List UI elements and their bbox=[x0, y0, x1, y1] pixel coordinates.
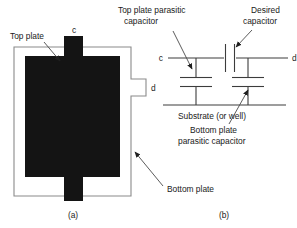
top-parasitic-label-line2: capacitor bbox=[124, 16, 158, 26]
top-plate-label: Top plate bbox=[10, 31, 44, 41]
caption-b: (b) bbox=[219, 210, 229, 220]
bottom-plate-label: Bottom plate bbox=[167, 184, 214, 194]
desired-capacitor-label-line1: Desired bbox=[251, 5, 280, 15]
layout-terminal-d-label: d bbox=[151, 83, 156, 93]
caption-a: (a) bbox=[68, 210, 78, 220]
desired-capacitor-leader-line bbox=[236, 30, 252, 47]
desired-capacitor-label-line2: capacitor bbox=[243, 16, 277, 26]
bottom-parasitic-label-line2: parasitic capacitor bbox=[178, 136, 246, 146]
capacitor-parasitics-figure: c d Top plate Bottom plate (a) c d bbox=[0, 0, 297, 228]
top-plate-body bbox=[25, 56, 120, 177]
top-parasitic-leader-line bbox=[173, 31, 192, 69]
schematic-terminal-d-label: d bbox=[292, 53, 297, 63]
schematic-terminal-c-label: c bbox=[159, 53, 163, 63]
top-plate-terminal-tab bbox=[64, 36, 83, 62]
bottom-plate-leader-line bbox=[135, 152, 163, 186]
bottom-parasitic-label-line1: Bottom plate bbox=[190, 125, 237, 135]
top-parasitic-label-line1: Top plate parasitic bbox=[118, 5, 186, 15]
bottom-plate-terminal-tab bbox=[64, 172, 83, 201]
layout-terminal-c-label: c bbox=[72, 25, 76, 35]
